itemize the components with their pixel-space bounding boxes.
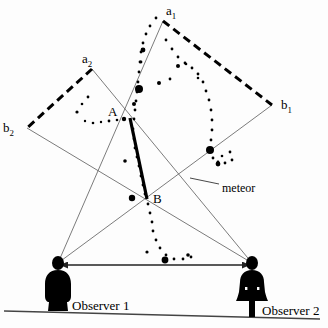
label-b1: b1	[281, 98, 292, 114]
sightline-obs2-a2	[92, 69, 252, 263]
meteor-leader-line	[190, 178, 219, 184]
label-a1: a1	[166, 4, 176, 20]
label-point-b: B	[153, 192, 162, 205]
observer1-figure	[45, 256, 71, 311]
label-point-a: A	[108, 105, 117, 118]
star-field-left	[75, 96, 126, 125]
sightline-obs1-a1	[58, 21, 163, 263]
diagram-canvas	[0, 0, 328, 328]
meteor-trail-1	[132, 17, 193, 261]
label-a2: a2	[82, 52, 92, 68]
meteor-parallax-diagram: a1 a2 b1 b2 A B meteor Observer 1 Observ…	[0, 0, 328, 328]
label-b2: b2	[3, 121, 14, 137]
label-observer-1: Observer 1	[72, 299, 129, 312]
constellation-frame-2	[27, 69, 92, 128]
constellation-frame-1	[163, 21, 272, 105]
meteor-track-segment	[130, 118, 147, 199]
meteor-trail-2	[165, 39, 234, 165]
label-observer-2: Observer 2	[262, 304, 319, 317]
label-meteor: meteor	[222, 182, 255, 194]
sightline-obs2-b2	[27, 128, 252, 263]
